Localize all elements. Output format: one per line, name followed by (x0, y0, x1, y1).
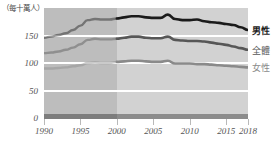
series-line-early-0 (44, 18, 117, 37)
series-label-1: 全體 (252, 43, 270, 56)
chart-figure: （每十萬人） 050100150 19901995200020052010201… (0, 0, 275, 149)
y-tick-label-50: 50 (29, 86, 38, 96)
x-tick-1995 (80, 119, 81, 125)
y-tick-label-150: 150 (25, 31, 39, 41)
x-tick-label-2000: 2000 (108, 126, 126, 136)
x-tick-1990 (44, 119, 45, 125)
series-line-early-1 (44, 39, 117, 53)
x-tick-label-2015: 2015 (217, 126, 235, 136)
series-line-2 (117, 61, 248, 68)
x-tick-2005 (153, 119, 154, 125)
x-tick-2000 (117, 119, 118, 125)
x-tick-label-1990: 1990 (35, 126, 53, 136)
axis-baseline (44, 114, 248, 119)
x-tick-label-2005: 2005 (144, 126, 162, 136)
x-tick-label-2018: 2018 (239, 126, 257, 136)
series-lines (44, 8, 248, 118)
y-tick-label-100: 100 (25, 58, 39, 68)
series-label-0: 男性 (252, 24, 270, 37)
x-tick-2018 (248, 119, 249, 125)
x-tick-label-2010: 2010 (181, 126, 199, 136)
series-label-2: 女性 (252, 61, 270, 74)
series-line-early-2 (44, 62, 117, 69)
x-tick-label-1995: 1995 (71, 126, 89, 136)
x-tick-2010 (190, 119, 191, 125)
plot-area (44, 8, 248, 118)
x-tick-2015 (226, 119, 227, 125)
series-line-1 (117, 37, 248, 50)
series-line-0 (117, 15, 248, 30)
y-tick-label-0: 0 (34, 113, 39, 123)
y-axis-unit-label: （每十萬人） (2, 2, 44, 13)
